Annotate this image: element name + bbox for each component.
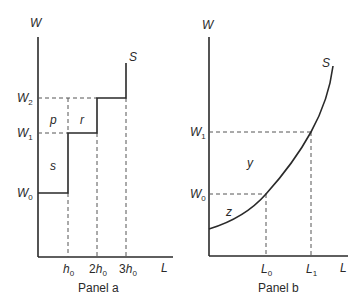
panel-b-y-tick-w1: W1 (190, 125, 206, 141)
panel-a-region-s: s (50, 159, 56, 173)
panel-a-y-tick-w2: W2 (17, 91, 33, 107)
panel-a-curve-label: S (129, 50, 137, 64)
panel-a-region-p: p (49, 113, 57, 127)
panel-a-x-tick-2h0: 2h0 (89, 262, 107, 278)
panel-b-y-tick-w0: W0 (190, 187, 206, 203)
panel-a-region-r: r (80, 113, 85, 127)
panel-a-caption: Panel a (78, 281, 119, 295)
panel-b: W L S W1 W0 L0 L1 y z Panel b (190, 18, 348, 295)
panel-a-step-supply-curve (38, 63, 126, 193)
panel-b-y-axis-label: W (202, 18, 215, 32)
panel-b-x-axis-label: L (340, 261, 347, 275)
figure: W L S W2 W1 W0 h0 2h0 3h0 p r s Panel a (0, 0, 364, 306)
panel-a: W L S W2 W1 W0 h0 2h0 3h0 p r s Panel a (17, 16, 173, 295)
panel-a-y-tick-w1: W1 (17, 126, 33, 142)
panel-a-x-tick-3h0: 3h0 (119, 262, 137, 278)
panel-b-guides (209, 132, 311, 256)
panel-a-x-tick-h0: h0 (63, 262, 75, 278)
panel-b-curve-label: S (322, 56, 330, 70)
panel-b-caption: Panel b (258, 281, 299, 295)
panel-a-y-tick-w0: W0 (17, 186, 33, 202)
panel-a-y-axis-label: W (30, 16, 43, 30)
panel-b-region-z: z (225, 205, 232, 219)
panel-b-x-tick-l1: L1 (306, 262, 318, 278)
panel-a-x-axis-label: L (161, 261, 168, 275)
panel-b-x-tick-l0: L0 (261, 262, 273, 278)
panel-b-region-y: y (246, 156, 254, 170)
